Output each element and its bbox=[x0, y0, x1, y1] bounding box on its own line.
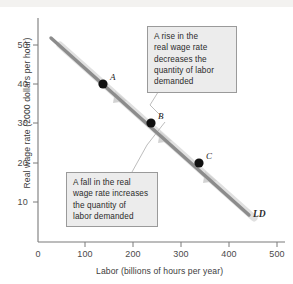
annotation-fall-line-4: labor demanded bbox=[73, 211, 152, 222]
callout-bottom-leader bbox=[132, 122, 165, 172]
x-tick-label-200: 200 bbox=[118, 249, 148, 259]
x-tick-label-100: 100 bbox=[70, 249, 100, 259]
x-tick-label-400: 400 bbox=[214, 249, 244, 259]
annotation-rise-line-3: decreases the bbox=[154, 54, 231, 65]
point-label-b: B bbox=[158, 111, 164, 121]
x-tick-label-0: 0 bbox=[23, 249, 53, 259]
annotation-fall-in-wage: A fall in the real wage rate increases t… bbox=[66, 172, 158, 227]
annotation-fall-line-3: the quantity of bbox=[73, 200, 152, 211]
data-point-a bbox=[98, 79, 107, 88]
annotation-rise-line-2: real wage rate bbox=[154, 42, 231, 53]
x-axis-ticks bbox=[85, 242, 277, 247]
x-axis-title: Labor (billions of hours per year) bbox=[96, 266, 223, 276]
x-tick-label-300: 300 bbox=[166, 249, 196, 259]
annotation-rise-line-5: demanded bbox=[154, 76, 231, 87]
data-point-c bbox=[194, 158, 203, 167]
annotation-fall-line-2: wage rate increases bbox=[73, 188, 152, 199]
point-label-c: C bbox=[206, 151, 212, 161]
data-point-b bbox=[146, 118, 155, 127]
annotation-fall-line-1: A fall in the real bbox=[73, 177, 152, 188]
point-label-a: A bbox=[110, 72, 116, 82]
labor-demand-chart: 50 40 30 20 10 0 100 200 300 400 500 Rea… bbox=[0, 0, 293, 284]
y-axis-ticks bbox=[33, 45, 38, 202]
annotation-rise-in-wage: A rise in the real wage rate decreases t… bbox=[147, 26, 237, 93]
annotation-rise-line-1: A rise in the bbox=[154, 31, 231, 42]
x-tick-label-500: 500 bbox=[262, 249, 292, 259]
annotation-rise-line-4: quantity of labor bbox=[154, 65, 231, 76]
y-axis-title: Real wage rate (2000 dollars per hour) bbox=[22, 23, 32, 203]
curve-label-ld: LD bbox=[253, 209, 266, 219]
